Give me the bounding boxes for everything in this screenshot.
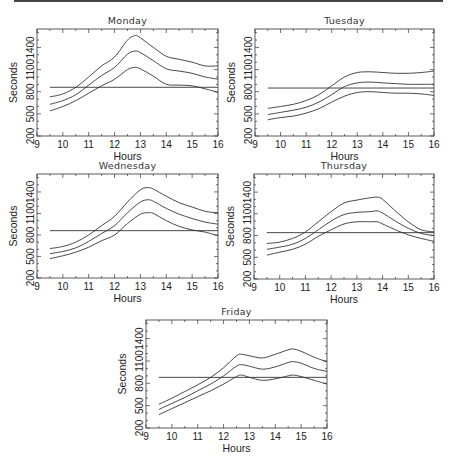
y-tick-label: 1100 [243, 58, 254, 80]
x-tick-label: 15 [403, 139, 415, 150]
y-axis-label: Seconds [224, 206, 236, 247]
x-tick-label: 11 [84, 281, 95, 292]
chart-title: Wednesday [99, 160, 157, 171]
chart-title: Thursday [320, 160, 368, 171]
series-line-lower [268, 92, 434, 120]
x-tick-label: 12 [218, 431, 230, 442]
plot-frame [254, 174, 434, 279]
y-tick-label: 1400 [243, 36, 254, 59]
y-tick-label: 500 [25, 105, 36, 122]
chart-title: Monday [108, 15, 147, 26]
x-tick-label: 14 [161, 139, 173, 150]
y-tick-label: 200 [242, 270, 253, 287]
series-line-upper [268, 71, 434, 108]
x-tick-label: 12 [326, 282, 338, 293]
y-tick-label: 800 [134, 375, 145, 392]
panel-wednesday: Wednesday9101112131415162005008001100140… [7, 160, 224, 304]
y-tick-label: 200 [25, 127, 36, 144]
series-line-middle [50, 51, 218, 104]
x-tick-label: 12 [109, 281, 121, 292]
plot-frame [37, 174, 218, 278]
x-tick-label: 15 [187, 281, 199, 292]
x-tick-label: 11 [300, 282, 311, 293]
y-tick-label: 500 [134, 397, 145, 414]
x-tick-label: 16 [428, 139, 440, 150]
x-axis-label: Hours [113, 292, 141, 304]
plot-frame [255, 29, 434, 136]
y-tick-label: 500 [25, 248, 36, 265]
series-line-lower [50, 213, 218, 259]
x-tick-label: 10 [166, 431, 178, 442]
y-axis-label: Seconds [225, 62, 237, 103]
y-tick-label: 1400 [25, 36, 36, 59]
y-axis-label: Seconds [7, 206, 19, 247]
series-line-middle [159, 362, 327, 410]
x-tick-label: 10 [275, 139, 287, 150]
x-tick-label: 14 [377, 139, 389, 150]
y-tick-label: 500 [242, 248, 253, 265]
x-tick-label: 16 [428, 282, 440, 293]
y-axis-label: Seconds [116, 354, 128, 395]
x-tick-label: 11 [193, 431, 204, 442]
y-tick-label: 1100 [242, 203, 253, 225]
y-tick-label: 200 [25, 269, 36, 286]
x-tick-label: 12 [326, 139, 338, 150]
series-line-middle [268, 82, 434, 115]
x-tick-label: 13 [244, 431, 256, 442]
x-tick-label: 10 [57, 139, 69, 150]
x-tick-label: 13 [352, 139, 364, 150]
x-tick-label: 14 [270, 431, 282, 442]
x-tick-label: 10 [57, 281, 69, 292]
y-tick-label: 800 [25, 226, 36, 243]
y-tick-label: 1400 [134, 327, 145, 350]
x-tick-label: 16 [212, 139, 224, 150]
y-tick-label: 1100 [25, 58, 36, 80]
series-line-middle [267, 211, 434, 249]
plot-frame [146, 320, 327, 428]
series-line-upper [267, 197, 434, 243]
panel-friday: Friday91011121314151620050080011001400Ho… [116, 306, 333, 454]
y-tick-label: 800 [242, 227, 253, 244]
x-tick-label: 14 [377, 282, 389, 293]
y-tick-label: 800 [25, 83, 36, 100]
x-tick-label: 11 [84, 139, 95, 150]
x-tick-label: 15 [403, 282, 415, 293]
chart-title: Tuesday [323, 15, 365, 26]
y-tick-label: 200 [134, 419, 145, 436]
panel-monday: Monday91011121314151620050080011001400Ho… [7, 15, 224, 162]
y-tick-label: 1400 [25, 180, 36, 203]
y-tick-label: 800 [243, 83, 254, 100]
x-tick-label: 11 [301, 139, 312, 150]
y-tick-label: 1100 [134, 350, 145, 372]
x-tick-label: 15 [187, 139, 199, 150]
x-tick-label: 16 [212, 281, 224, 292]
x-tick-label: 15 [296, 431, 308, 442]
x-tick-label: 12 [109, 139, 121, 150]
panel-tuesday: Tuesday91011121314151620050080011001400H… [225, 15, 440, 162]
series-line-middle [50, 200, 218, 254]
y-tick-label: 1400 [242, 181, 253, 204]
chart-title: Friday [221, 306, 252, 317]
x-tick-label: 10 [274, 282, 286, 293]
y-axis-label: Seconds [7, 62, 19, 103]
x-axis-label: Hours [330, 293, 358, 305]
panel-thursday: Thursday91011121314151620050080011001400… [224, 160, 440, 305]
x-tick-label: 14 [161, 281, 173, 292]
series-line-lower [159, 375, 327, 415]
plot-frame [37, 29, 218, 136]
y-tick-label: 500 [243, 105, 254, 122]
y-tick-label: 1100 [25, 202, 36, 224]
x-tick-label: 13 [351, 282, 363, 293]
x-tick-label: 16 [321, 431, 333, 442]
chart-grid: Monday91011121314151620050080011001400Ho… [0, 0, 450, 459]
y-tick-label: 200 [243, 127, 254, 144]
x-axis-label: Hours [222, 442, 250, 454]
x-tick-label: 13 [135, 281, 147, 292]
x-tick-label: 13 [135, 139, 147, 150]
